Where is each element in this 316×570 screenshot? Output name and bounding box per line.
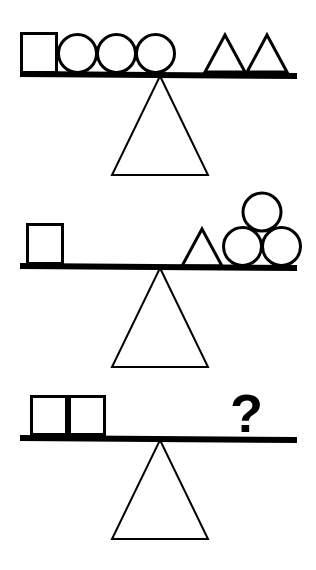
- square-shape: [70, 397, 105, 435]
- triangle-shape: [247, 35, 287, 72]
- scale-2-right-pan: [182, 193, 301, 266]
- circle-shape: [137, 35, 175, 73]
- triangle-shape: [205, 35, 245, 72]
- square-shape: [32, 397, 67, 435]
- square-shape: [22, 34, 57, 73]
- scale-3-left-pan: [32, 397, 105, 435]
- square-shape: [28, 225, 63, 264]
- scale-3-right-pan: ?: [230, 383, 263, 443]
- fulcrum-triangle: [112, 440, 208, 539]
- fulcrum-triangle: [112, 268, 208, 367]
- circle-shape: [243, 193, 281, 231]
- circle-shape: [59, 35, 97, 73]
- question-mark-icon: ?: [230, 383, 263, 443]
- scale-1-left-pan: [22, 34, 175, 73]
- balance-puzzle-scene: ?: [0, 0, 316, 570]
- fulcrum-triangle: [112, 76, 208, 175]
- triangle-shape: [182, 229, 222, 266]
- balance-puzzle-root: ?: [0, 0, 316, 570]
- circle-shape: [98, 35, 136, 73]
- scale-2: [20, 193, 301, 367]
- circle-shape: [224, 228, 262, 266]
- circle-shape: [263, 228, 301, 266]
- scale-1: [20, 34, 297, 176]
- scale-3: ?: [20, 383, 297, 539]
- scale-2-left-pan: [28, 225, 63, 264]
- scale-1-right-pan: [205, 35, 287, 72]
